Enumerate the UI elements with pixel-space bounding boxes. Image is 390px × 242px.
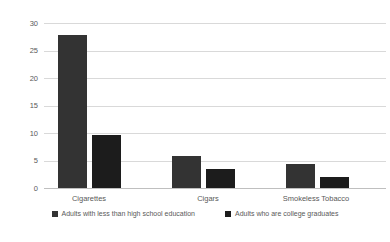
bar-cigars-series1 <box>172 156 201 188</box>
bar-cigarettes-series2 <box>92 135 121 188</box>
y-axis-tick-label: 20 <box>8 74 38 84</box>
legend-marker-icon <box>225 211 231 217</box>
y-axis-tick-label: 30 <box>8 19 38 29</box>
bar-cigars-series2 <box>206 169 235 188</box>
legend-label: Adults with less than high school educat… <box>62 210 195 217</box>
bar-smokeless-tobacco-series2 <box>320 177 349 188</box>
y-axis-tick-label: 10 <box>8 129 38 139</box>
gridline <box>44 78 386 79</box>
y-axis-tick-label: 0 <box>8 184 38 194</box>
bar-chart: Cigarettes Cigars Smokeless Tobacco Adul… <box>0 0 390 242</box>
legend-item-series1: Adults with less than high school educat… <box>52 210 195 217</box>
gridline <box>44 133 386 134</box>
y-axis-tick-label: 15 <box>8 101 38 111</box>
category-label-cigars: Cigars <box>197 194 219 203</box>
x-axis-line <box>44 188 386 189</box>
legend-label: Adults who are college graduates <box>235 210 339 217</box>
gridline <box>44 51 386 52</box>
gridline <box>44 106 386 107</box>
bar-smokeless-tobacco-series1 <box>286 164 315 188</box>
bar-cigarettes-series1 <box>58 35 87 188</box>
gridline <box>44 23 386 24</box>
category-label-cigarettes: Cigarettes <box>72 194 106 203</box>
legend-marker-icon <box>52 211 58 217</box>
y-axis-tick-label: 25 <box>8 46 38 56</box>
y-axis-tick-label: 5 <box>8 156 38 166</box>
category-label-smokeless-tobacco: Smokeless Tobacco <box>283 194 350 203</box>
legend-item-series2: Adults who are college graduates <box>225 210 339 217</box>
legend: Adults with less than high school educat… <box>0 210 390 217</box>
